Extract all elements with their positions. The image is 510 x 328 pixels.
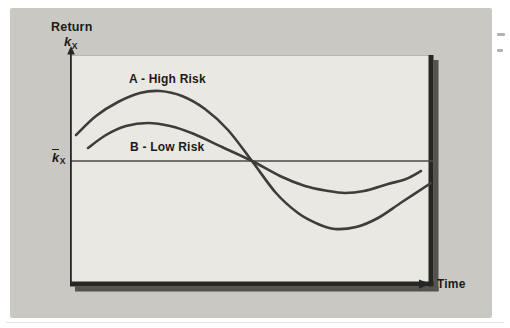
page-edge-artifact (6, 322, 504, 323)
k-subscript: X (72, 41, 78, 51)
mean-return-symbol: kX (52, 149, 65, 166)
page-edge-artifact (497, 49, 503, 52)
y-axis-line (70, 50, 72, 285)
k-bar-subscript: X (60, 156, 66, 166)
x-axis-line (70, 282, 434, 287)
page-edge-artifact (497, 33, 505, 36)
plot-border-right (429, 55, 434, 287)
series-a-label: A - High Risk (129, 72, 206, 86)
plot-shadow-bottom (75, 287, 439, 292)
plot-area (70, 55, 433, 285)
plot-shadow-right (434, 60, 439, 291)
k-bar-symbol: k (52, 149, 59, 164)
k-symbol: k (64, 34, 71, 49)
y-axis-symbol: kX (64, 34, 77, 51)
series-b-label: B - Low Risk (130, 140, 204, 154)
y-axis-title: Return (51, 20, 92, 34)
x-axis-label: Time (437, 277, 466, 291)
